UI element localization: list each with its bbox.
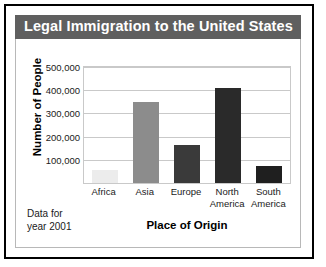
x-axis-tick-label: Africa xyxy=(83,186,124,198)
y-axis-tick-label: 400,000 xyxy=(46,85,80,96)
y-axis-tick-label: 500,000 xyxy=(46,62,80,73)
bar-asia xyxy=(133,102,159,183)
gridline xyxy=(84,90,290,91)
x-axis-tick-label-line: Europe xyxy=(165,186,206,198)
x-axis-tick-label-line: North xyxy=(207,186,248,198)
bar-europe xyxy=(174,145,200,183)
bar-africa xyxy=(92,170,118,183)
x-axis-title: Place of Origin xyxy=(83,219,291,231)
y-axis-tick-label: 300,000 xyxy=(46,108,80,119)
chart-title-banner: Legal Immigration to the United States xyxy=(15,15,301,39)
page-title: Legal Immigration to the United States xyxy=(24,18,293,34)
gridline xyxy=(84,137,290,138)
x-axis-tick-label: Asia xyxy=(124,186,165,198)
x-axis-tick-label-line: America xyxy=(207,198,248,210)
bar-south-america xyxy=(256,166,282,183)
plot-area: 100,000200,000300,000400,000500,000 xyxy=(83,66,291,184)
gridline xyxy=(84,67,290,68)
x-axis-tick-label: NorthAmerica xyxy=(207,186,248,209)
chart-body: Number of People 100,000200,000300,00040… xyxy=(15,39,301,248)
x-axis-tick-label: Europe xyxy=(165,186,206,198)
gridline xyxy=(84,113,290,114)
chart-footnote: Data for year 2001 xyxy=(27,207,71,233)
x-axis-tick-label-line: Asia xyxy=(124,186,165,198)
x-axis-tick-label-line: America xyxy=(248,198,289,210)
y-axis-tick-label: 200,000 xyxy=(46,131,80,142)
y-axis-tick-label: 100,000 xyxy=(46,154,80,165)
chart-figure: Legal Immigration to the United States N… xyxy=(4,4,314,259)
footnote-line-2: year 2001 xyxy=(27,220,71,233)
footnote-line-1: Data for xyxy=(27,207,71,220)
x-axis-tick-label-line: Africa xyxy=(83,186,124,198)
x-axis-category-labels: AfricaAsiaEuropeNorthAmericaSouthAmerica xyxy=(83,186,291,218)
y-axis-title: Number of People xyxy=(31,42,43,172)
bar-north-america xyxy=(215,88,241,183)
x-axis-tick-label-line: South xyxy=(248,186,289,198)
x-axis-tick-label: SouthAmerica xyxy=(248,186,289,209)
